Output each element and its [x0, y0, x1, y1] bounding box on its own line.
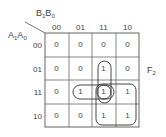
row-header: 00 — [24, 42, 42, 50]
row-variable-label: A1A0 — [8, 31, 27, 41]
kmap-cell: 0 — [45, 57, 68, 80]
kmap-cell: 0 — [69, 57, 92, 80]
column-variable-label: B1B0 — [36, 9, 55, 19]
kmap-cell: 0 — [45, 104, 68, 127]
row-header: 01 — [24, 66, 42, 74]
kmap-cell: 0 — [69, 104, 92, 127]
kmap-cell: 1 — [116, 80, 139, 103]
row-header: 11 — [24, 89, 42, 97]
row-header: 10 — [24, 113, 42, 121]
kmap-cell: 0 — [116, 33, 139, 56]
kmap-cell: 0 — [45, 33, 68, 56]
kmap-cell: 1 — [92, 104, 115, 127]
column-header: 10 — [116, 24, 139, 32]
kmap-cell: 1 — [69, 80, 92, 103]
kmap-cell: 0 — [92, 33, 115, 56]
output-label: F2 — [147, 66, 156, 76]
kmap-cell: 0 — [69, 33, 92, 56]
kmap-cell: 0 — [45, 80, 68, 103]
column-header: 01 — [69, 24, 92, 32]
kmap-cell: 1 — [92, 80, 115, 103]
column-header: 00 — [45, 24, 68, 32]
kmap-cell: 1 — [92, 57, 115, 80]
kmap-cell: 0 — [116, 57, 139, 80]
column-header: 11 — [92, 24, 115, 32]
kmap-cell: 1 — [116, 104, 139, 127]
